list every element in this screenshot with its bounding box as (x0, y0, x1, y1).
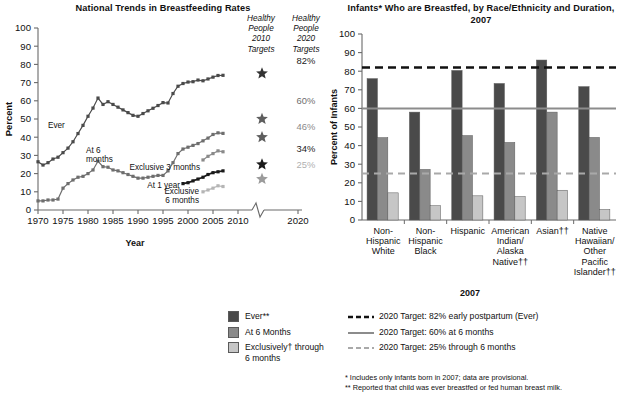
svg-text:Hispanic: Hispanic (451, 226, 486, 236)
svg-text:Black: Black (414, 246, 437, 256)
footnotes: * Includes only infants born in 2007; da… (345, 373, 623, 392)
svg-text:50: 50 (344, 121, 355, 132)
left-chart-title: National Trends in Breastfeeding Rates (18, 2, 308, 14)
svg-text:1975: 1975 (52, 215, 73, 226)
legend-swatch-group-ever: Ever** (228, 311, 348, 322)
legend-solid-line-60-icon (348, 327, 374, 338)
hp2020-l4: Targets (285, 45, 327, 55)
svg-text:82%: 82% (297, 55, 316, 66)
svg-text:40: 40 (344, 140, 355, 151)
svg-text:2020: 2020 (287, 215, 308, 226)
footnote-2: ** Reported that child was ever breastfe… (345, 383, 623, 393)
svg-text:2005: 2005 (202, 215, 223, 226)
svg-text:100: 100 (339, 28, 355, 39)
svg-text:Exclusive: Exclusive (164, 187, 199, 196)
legend-label-target-60: 2020 Target: 60% at 6 months (379, 327, 494, 338)
svg-text:Alaska: Alaska (497, 246, 524, 256)
legend-dashed-line-82-icon (348, 311, 374, 322)
svg-text:60: 60 (344, 103, 355, 114)
svg-text:50: 50 (20, 113, 31, 124)
svg-text:34%: 34% (297, 143, 316, 154)
svg-text:Hispanic: Hispanic (366, 236, 401, 246)
hp2010-l1: Healthy (240, 14, 282, 24)
legend-row-2: At 6 Months 2020 Target: 60% at 6 months (228, 327, 618, 338)
svg-text:60: 60 (20, 95, 31, 106)
svg-text:2010: 2010 (227, 215, 248, 226)
svg-text:Percent: Percent (3, 102, 14, 136)
svg-text:1995: 1995 (152, 215, 173, 226)
right-chart-title: Infants* Who are Breastfed, by Race/Ethn… (345, 2, 617, 26)
svg-text:6 months: 6 months (165, 196, 199, 205)
legend-line-group-60: 2020 Target: 60% at 6 months (348, 327, 494, 338)
legend-swatch-ever-icon (228, 311, 239, 322)
right-bar-chart: 0102030405060708090100Percent of Infants… (328, 26, 623, 326)
hp2020-l2: People (285, 24, 327, 34)
legend-label-target-25: 2020 Target: 25% through 6 months (379, 342, 515, 353)
legend-line-group-25: 2020 Target: 25% through 6 months (348, 342, 515, 353)
svg-text:1980: 1980 (77, 215, 98, 226)
left-x-axis-label: Year (20, 238, 250, 248)
svg-text:20: 20 (344, 177, 355, 188)
hp2020-l1: Healthy (285, 14, 327, 24)
legend-swatch-exclusively-icon (228, 342, 239, 353)
svg-text:20: 20 (20, 168, 31, 179)
svg-text:30: 30 (344, 159, 355, 170)
svg-text:Exclusive 3 months: Exclusive 3 months (129, 163, 200, 172)
legend-swatch-group-6mo: At 6 Months (228, 327, 348, 338)
svg-text:90: 90 (20, 41, 31, 52)
svg-text:46%: 46% (297, 121, 316, 132)
svg-text:Other: Other (584, 246, 607, 256)
svg-text:Islander††: Islander†† (574, 267, 616, 277)
svg-text:Indian/: Indian/ (497, 236, 525, 246)
legend-swatch-group-excl: Exclusively† through 6 months (228, 342, 348, 363)
svg-text:80: 80 (344, 66, 355, 77)
svg-text:30: 30 (20, 150, 31, 161)
hp2010-l2: People (240, 24, 282, 34)
legend-line-group-82: 2020 Target: 82% early postpartum (Ever) (348, 311, 538, 322)
hp2010-target-heading: Healthy People 2010 Targets (240, 14, 282, 55)
svg-text:90: 90 (344, 47, 355, 58)
svg-text:Hawaiian/: Hawaiian/ (575, 236, 615, 246)
right-x-axis-label: 2007 (345, 288, 595, 298)
legend-swatch-at6months-icon (228, 327, 239, 338)
svg-text:Percent of Infants: Percent of Infants (329, 89, 339, 165)
svg-text:Non-: Non- (373, 226, 393, 236)
svg-text:At 6: At 6 (86, 146, 101, 155)
svg-text:0: 0 (26, 204, 31, 215)
svg-text:Hispanic: Hispanic (408, 236, 443, 246)
svg-text:1970: 1970 (27, 215, 48, 226)
svg-text:Non-: Non- (416, 226, 436, 236)
svg-text:White: White (372, 246, 395, 256)
hp2020-l3: 2020 (285, 34, 327, 44)
legend-label-target-82: 2020 Target: 82% early postpartum (Ever) (379, 311, 538, 322)
svg-text:25%: 25% (297, 159, 316, 170)
legend-label-ever: Ever** (245, 311, 269, 322)
legend-dashed-line-25-icon (348, 342, 374, 353)
svg-text:1985: 1985 (102, 215, 123, 226)
legend-label-exclusively-2: 6 months (245, 353, 280, 363)
svg-text:80: 80 (20, 59, 31, 70)
svg-text:1990: 1990 (127, 215, 148, 226)
legend-label-exclusively: Exclusively† through (245, 342, 324, 352)
svg-text:0: 0 (350, 214, 355, 225)
hp2020-target-heading: Healthy People 2020 Targets (285, 14, 327, 55)
svg-text:2000: 2000 (177, 215, 198, 226)
svg-text:60%: 60% (297, 95, 316, 106)
svg-text:American: American (491, 226, 529, 236)
svg-text:Native††: Native†† (492, 257, 528, 267)
svg-text:100: 100 (15, 22, 31, 33)
svg-text:10: 10 (344, 196, 355, 207)
footnote-1: * Includes only infants born in 2007; da… (345, 373, 623, 383)
hp2010-l3: 2010 (240, 34, 282, 44)
svg-text:Pacific: Pacific (582, 257, 609, 267)
svg-text:Ever: Ever (48, 121, 65, 130)
svg-text:70: 70 (344, 84, 355, 95)
svg-text:Native: Native (582, 226, 608, 236)
svg-text:40: 40 (20, 132, 31, 143)
legend-row-1: Ever** 2020 Target: 82% early postpartum… (228, 311, 618, 322)
svg-text:months: months (86, 155, 113, 164)
svg-text:70: 70 (20, 77, 31, 88)
legend: Ever** 2020 Target: 82% early postpartum… (228, 311, 618, 368)
hp2010-l4: Targets (240, 45, 282, 55)
svg-text:Asian††: Asian†† (536, 226, 569, 236)
